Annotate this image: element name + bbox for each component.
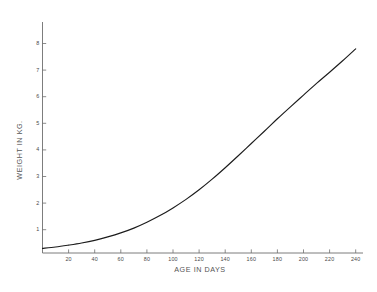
y-axis-ticks xyxy=(43,44,47,230)
y-tick-label-7: 7 xyxy=(36,67,39,73)
x-tick-label-100: 100 xyxy=(168,256,178,262)
x-tick-label-180: 180 xyxy=(273,256,283,262)
x-tick-label-80: 80 xyxy=(144,256,150,262)
y-tick-label-1: 1 xyxy=(36,226,39,232)
x-tick-label-160: 160 xyxy=(246,256,256,262)
x-tick-label-220: 220 xyxy=(325,256,335,262)
x-tick-label-40: 40 xyxy=(91,256,97,262)
y-tick-label-3: 3 xyxy=(36,173,39,179)
y-axis-tick-labels: 1 2 3 4 5 6 7 8 xyxy=(36,40,39,232)
x-tick-label-60: 60 xyxy=(118,256,124,262)
growth-curve-chart: 1 2 3 4 5 6 7 8 20 40 60 xyxy=(0,0,377,292)
weight-growth-curve xyxy=(43,49,356,249)
x-tick-label-240: 240 xyxy=(351,256,361,262)
x-tick-label-20: 20 xyxy=(65,256,71,262)
y-tick-label-4: 4 xyxy=(36,146,39,152)
x-axis-tick-labels: 20 40 60 80 100 120 140 160 180 200 220 … xyxy=(65,256,360,262)
x-tick-label-140: 140 xyxy=(220,256,230,262)
y-tick-label-6: 6 xyxy=(36,93,39,99)
y-tick-label-2: 2 xyxy=(36,200,39,206)
y-tick-label-8: 8 xyxy=(36,40,39,46)
x-tick-label-200: 200 xyxy=(299,256,309,262)
y-tick-label-5: 5 xyxy=(36,120,39,126)
x-axis-ticks xyxy=(69,249,356,253)
chart-figure: 1 2 3 4 5 6 7 8 20 40 60 xyxy=(0,0,377,292)
y-axis-title: WEIGHT IN KG. xyxy=(15,120,24,179)
x-tick-label-120: 120 xyxy=(194,256,204,262)
x-axis-title: AGE IN DAYS xyxy=(174,265,225,274)
